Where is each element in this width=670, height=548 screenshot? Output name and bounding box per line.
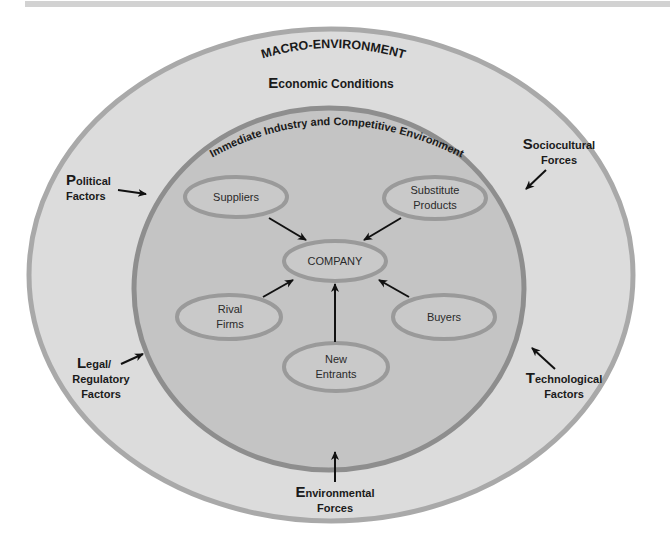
industry-environment-ellipse — [134, 108, 524, 470]
node-label-new-entrants: New Entrants — [286, 352, 386, 382]
node-label-substitute-products: Substitute Products — [385, 183, 485, 213]
label-technological-factors: Technological Factors — [509, 370, 619, 402]
node-label-company: COMPANY — [285, 254, 385, 269]
label-economic-conditions: Economic Conditions — [256, 75, 406, 92]
node-label-suppliers: Suppliers — [186, 190, 286, 205]
label-legal-regulatory-factors: Legal/ Regulatory Factors — [66, 355, 136, 402]
label-environmental-forces: Environmental Forces — [280, 484, 390, 516]
node-label-buyers: Buyers — [394, 310, 494, 325]
label-political-factors: Political Factors — [66, 172, 122, 204]
label-sociocultural-forces: Sociocultural Forces — [504, 136, 614, 168]
node-label-rival-firms: Rival Firms — [180, 302, 280, 332]
